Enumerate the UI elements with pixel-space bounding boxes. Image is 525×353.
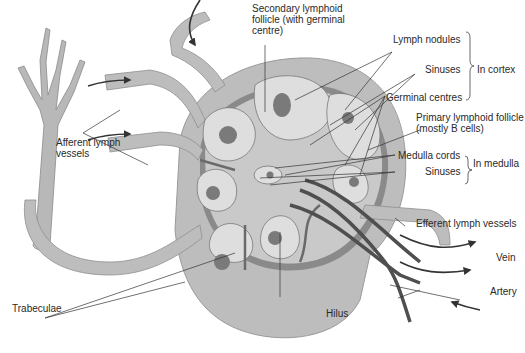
- label-lymph-nodules: Lymph nodules: [393, 34, 460, 45]
- label-sinuses-cortex: Sinuses: [425, 64, 461, 75]
- label-medulla-cords: Medulla cords: [398, 150, 460, 161]
- label-trabeculae: Trabeculae: [12, 303, 62, 314]
- label-vein: Vein: [496, 252, 515, 263]
- label-afferent-vessels: Afferent lymph vessels: [56, 137, 126, 159]
- label-primary-follicle: Primary lymphoid follicle (mostly B cell…: [416, 112, 525, 134]
- label-hilus: Hilus: [326, 308, 348, 319]
- label-in-cortex: In cortex: [477, 64, 515, 75]
- label-in-medulla: In medulla: [473, 158, 519, 169]
- label-germinal-centres: Germinal centres: [386, 92, 462, 103]
- label-artery: Artery: [490, 286, 517, 297]
- label-secondary-follicle: Secondary lymphoid follicle (with germin…: [252, 3, 362, 36]
- label-efferent-vessels: Efferent lymph vessels: [416, 218, 516, 229]
- label-sinuses-medulla: Sinuses: [425, 166, 461, 177]
